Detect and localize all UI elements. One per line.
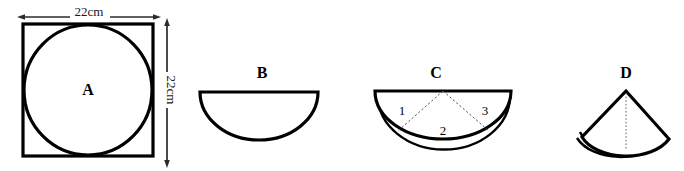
panel-b-letter: B [257,64,268,81]
geometry-figure: 22cm 22cm A B C [0,0,684,171]
dimension-top-label: 22cm [75,4,104,19]
panel-d-letter: D [620,64,632,81]
figure-canvas: 22cm 22cm A B C [0,0,684,171]
panel-b: B [200,64,318,140]
dimension-top: 22cm [25,4,153,19]
dimension-right: 22cm [164,26,179,160]
dimension-right-label: 22cm [164,76,179,105]
sector-label-2: 2 [440,123,447,138]
panel-a-letter: A [82,81,94,98]
panel-a: 22cm 22cm A [23,4,179,160]
panel-d: D [577,64,669,157]
panel-c: C 1 2 3 [375,64,511,149]
bowl-body [200,92,318,140]
sector-label-1: 1 [399,103,406,118]
sector-label-3: 3 [482,103,489,118]
panel-c-letter: C [430,64,442,81]
